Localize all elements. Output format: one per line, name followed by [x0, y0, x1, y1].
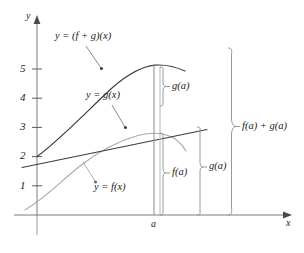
- brace-label-sum: f(a) + g(a): [242, 121, 287, 132]
- y-axis-arrowhead: [34, 15, 41, 24]
- brace-label-ticks: [166, 87, 240, 174]
- function-sum-figure: 5 4 3 2 1 y x a y = (f + g)(x) y = g(x) …: [0, 0, 304, 253]
- leader-dot-f-plus-g: [100, 67, 103, 70]
- y-tick-label-3: 3: [20, 121, 26, 132]
- y-tick-label-5: 5: [20, 63, 26, 74]
- brace-f-a: [160, 133, 166, 215]
- brace-g-a-upper: [160, 67, 166, 106]
- curve-label-f: y = f(x): [94, 182, 126, 193]
- leader-dot-g: [124, 126, 127, 129]
- y-tick-label-4: 4: [20, 92, 26, 103]
- leader-f-plus-g: [86, 46, 101, 68]
- curve-f: [25, 133, 186, 210]
- x-value-a-label: a: [151, 219, 156, 229]
- curve-label-g: y = g(x): [86, 90, 120, 101]
- y-tick-label-1: 1: [20, 180, 26, 191]
- brace-label-g-a-lower: g(a): [209, 161, 227, 172]
- curve-label-f-plus-g: y = (f + g)(x): [55, 31, 111, 42]
- brace-g-a-lower: [197, 127, 203, 215]
- leader-f-seg: [83, 162, 95, 181]
- brace-label-g-a-upper: g(a): [172, 81, 190, 92]
- brace-sum: [228, 48, 236, 215]
- brace-label-f-a: f(a): [172, 167, 187, 178]
- leader-lines: [83, 46, 127, 184]
- y-tick-label-2: 2: [20, 150, 26, 161]
- leader-g: [112, 105, 125, 127]
- curve-g: [22, 130, 207, 168]
- y-axis-label: y: [26, 11, 30, 21]
- x-axis-label: x: [286, 218, 290, 228]
